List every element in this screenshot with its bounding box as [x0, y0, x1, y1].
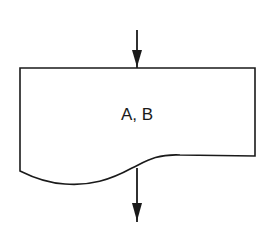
- flowchart-diagram: A, B: [0, 0, 272, 234]
- document-label: A, B: [121, 105, 153, 124]
- document-shape: [20, 68, 255, 184]
- outgoing-arrow: [132, 168, 142, 222]
- incoming-arrow: [132, 30, 142, 68]
